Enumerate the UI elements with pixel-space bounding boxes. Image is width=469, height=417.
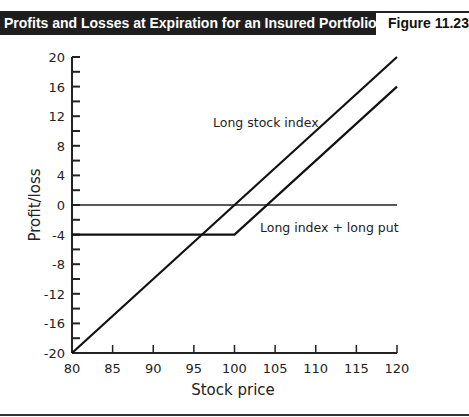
x-tick-label: 90	[145, 361, 162, 376]
y-tick-label: -12	[44, 287, 65, 302]
x-tick-label: 120	[385, 361, 410, 376]
chart-plot: 201612840-4-8-12-16-20808590951001051101…	[0, 0, 469, 417]
x-axis-title: Stock price	[191, 381, 275, 399]
y-tick-label: 8	[57, 139, 65, 154]
x-tick-label: 110	[303, 361, 328, 376]
y-tick-label: -16	[44, 316, 65, 331]
y-tick-label: 12	[48, 109, 65, 124]
x-tick-label: 115	[344, 361, 369, 376]
annotation-label: Long index + long put	[260, 220, 399, 235]
x-tick-label: 80	[64, 361, 81, 376]
y-tick-label: -8	[52, 257, 65, 272]
x-tick-label: 100	[222, 361, 247, 376]
y-axis-title: Profit/loss	[26, 168, 44, 241]
annotation-label: Long stock index	[213, 115, 319, 130]
y-tick-label: 16	[48, 80, 65, 95]
x-tick-label: 105	[263, 361, 288, 376]
x-tick-label: 95	[186, 361, 203, 376]
y-tick-label: -4	[52, 228, 65, 243]
y-tick-label: 4	[57, 168, 65, 183]
y-tick-label: -20	[44, 346, 65, 361]
y-tick-label: 0	[57, 198, 65, 213]
y-tick-label: 20	[48, 50, 65, 65]
x-tick-label: 85	[104, 361, 121, 376]
bottom-rule	[0, 414, 469, 416]
series-line-2	[72, 87, 397, 235]
